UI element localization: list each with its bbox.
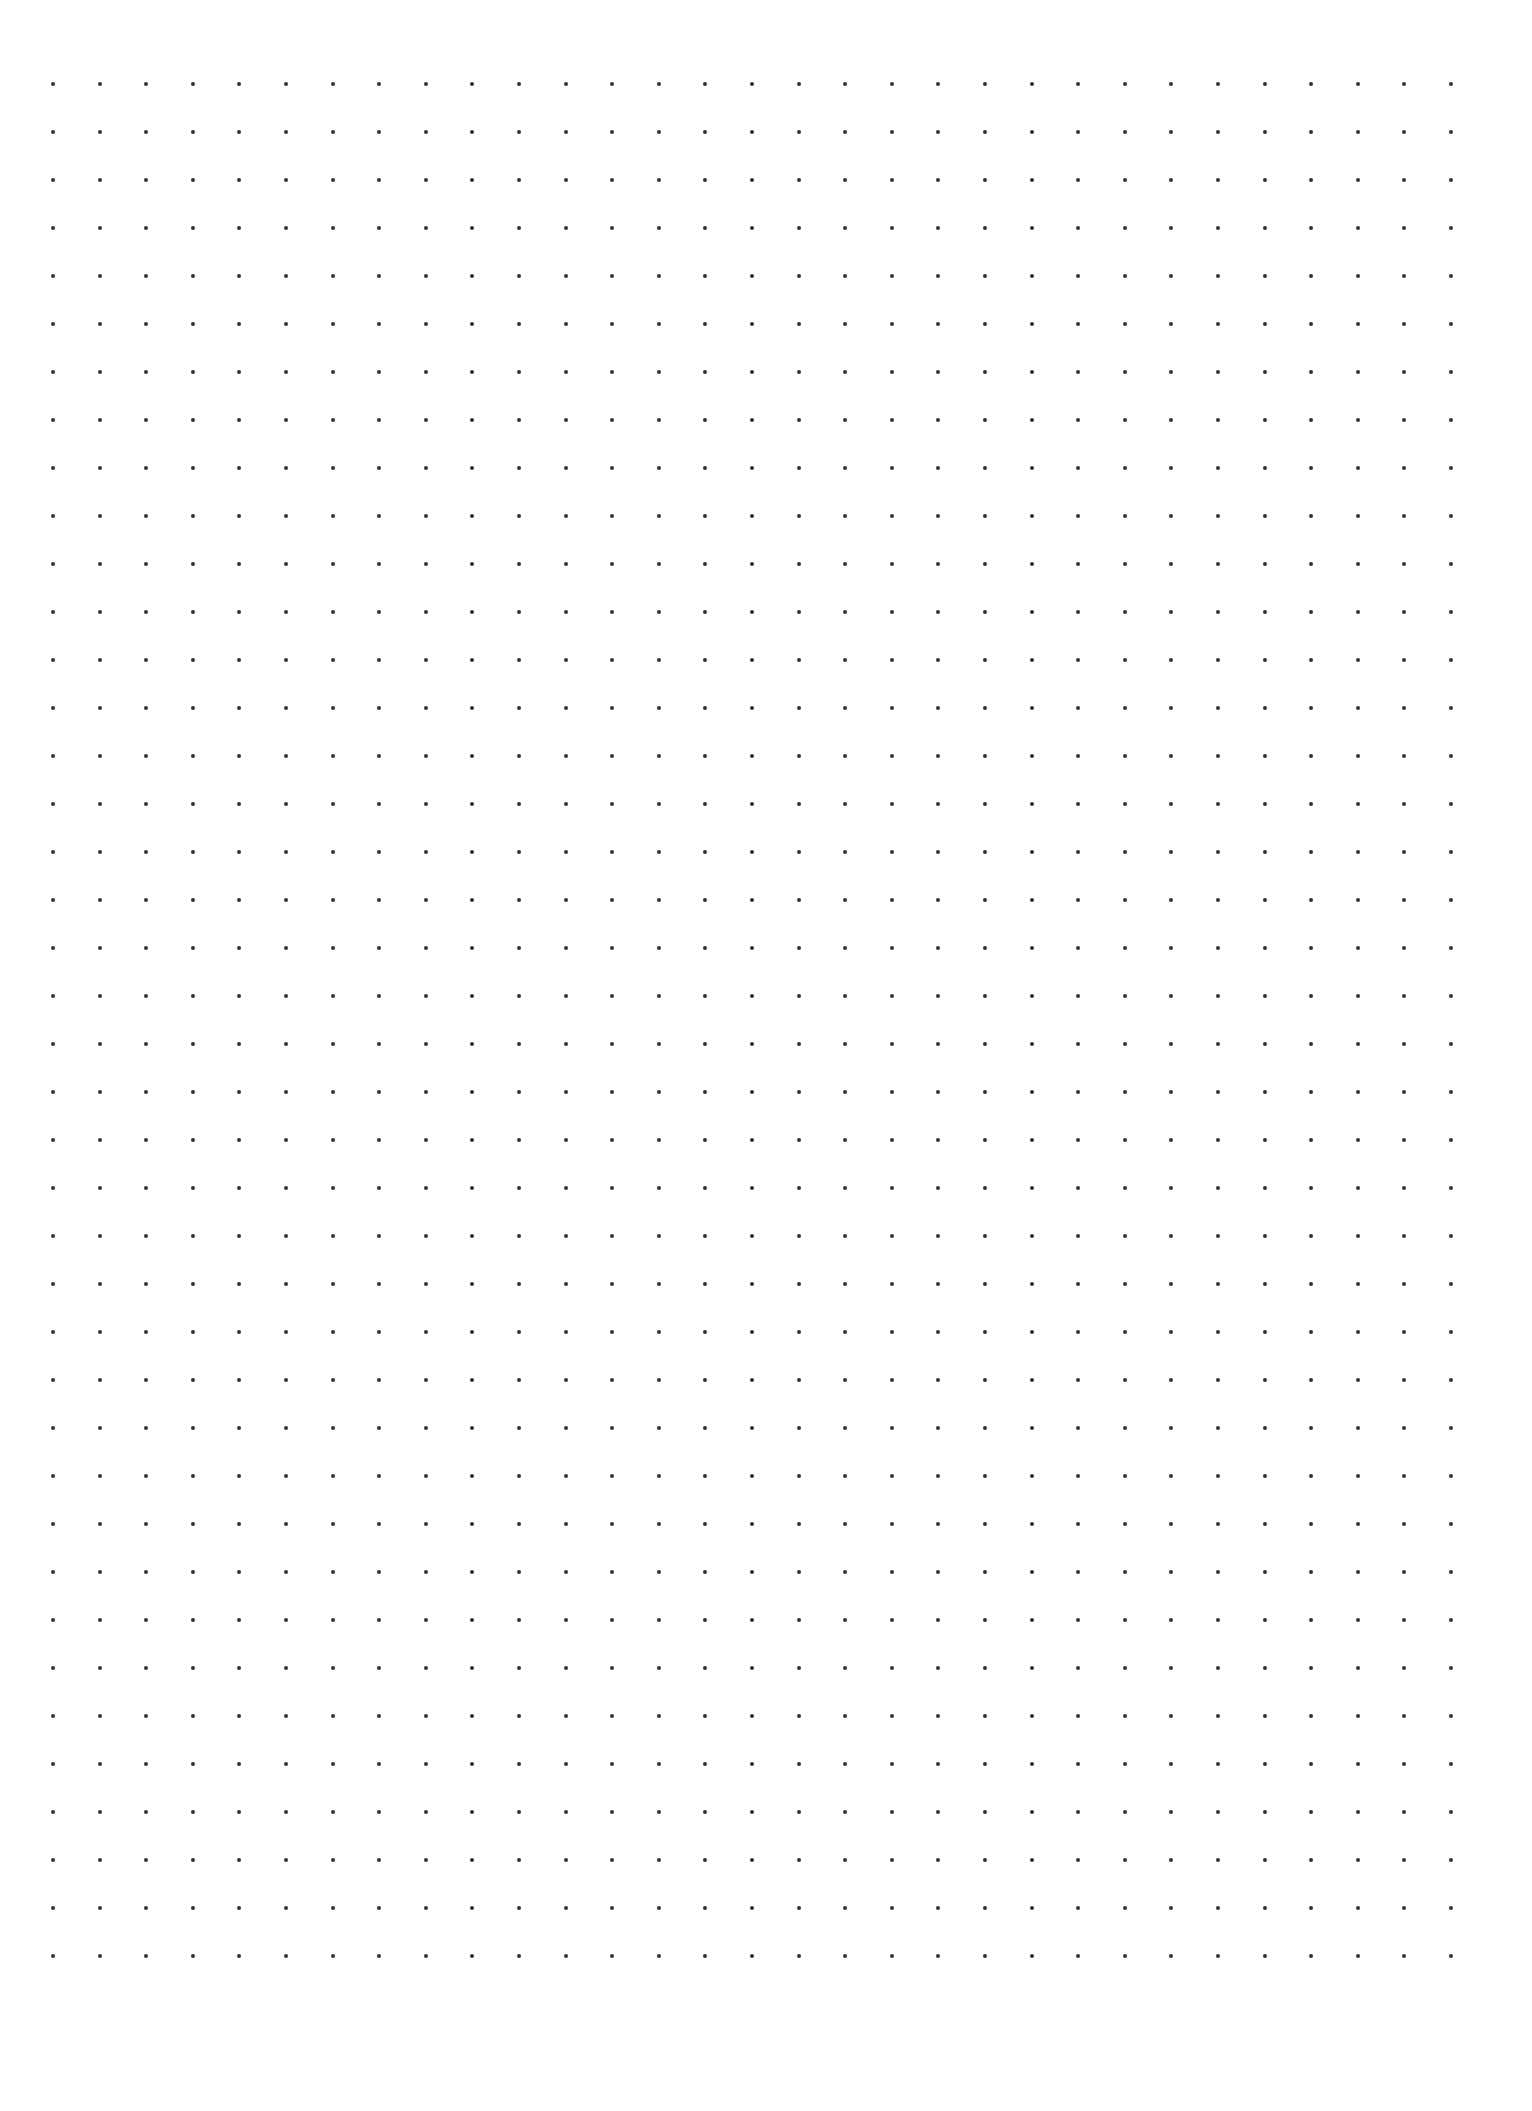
grid-dot (983, 1618, 987, 1622)
grid-dot (1449, 274, 1453, 278)
grid-dot (983, 1426, 987, 1430)
grid-dot (843, 1666, 847, 1670)
grid-dot (843, 1282, 847, 1286)
grid-dot (1123, 1282, 1127, 1286)
grid-dot (1076, 706, 1080, 710)
grid-dot (470, 754, 474, 758)
grid-dot (657, 1234, 661, 1238)
grid-dot (936, 610, 940, 614)
grid-dot (1263, 226, 1267, 230)
grid-dot (1123, 610, 1127, 614)
grid-dot (424, 946, 428, 950)
grid-dot (750, 754, 754, 758)
grid-dot (983, 1522, 987, 1526)
grid-dot (983, 898, 987, 902)
grid-dot (657, 1858, 661, 1862)
grid-dot (657, 514, 661, 518)
grid-dot (983, 322, 987, 326)
grid-dot (191, 1714, 195, 1718)
grid-dot (98, 322, 102, 326)
grid-dot (564, 946, 568, 950)
grid-dot (377, 994, 381, 998)
grid-dot (51, 1234, 55, 1238)
grid-dot (1030, 1906, 1034, 1910)
grid-dot (750, 1138, 754, 1142)
grid-dot (331, 1714, 335, 1718)
grid-dot (1402, 1762, 1406, 1766)
grid-dot (470, 1570, 474, 1574)
grid-dot (1076, 1570, 1080, 1574)
grid-dot (1356, 178, 1360, 182)
grid-dot (1169, 1138, 1173, 1142)
grid-dot (144, 946, 148, 950)
grid-dot (284, 418, 288, 422)
grid-dot (377, 130, 381, 134)
grid-dot (1169, 322, 1173, 326)
grid-dot (1169, 1954, 1173, 1958)
grid-dot (98, 1714, 102, 1718)
grid-dot (470, 658, 474, 662)
grid-dot (98, 1858, 102, 1862)
grid-dot (657, 82, 661, 86)
grid-dot (657, 898, 661, 902)
grid-dot (517, 610, 521, 614)
grid-dot (1263, 1234, 1267, 1238)
grid-dot (703, 994, 707, 998)
grid-dot (1309, 994, 1313, 998)
grid-dot (750, 658, 754, 662)
grid-dot (284, 1138, 288, 1142)
grid-dot (98, 1378, 102, 1382)
grid-dot (564, 514, 568, 518)
grid-dot (377, 850, 381, 854)
grid-dot (1263, 514, 1267, 518)
grid-dot (284, 802, 288, 806)
grid-dot (1263, 1618, 1267, 1622)
grid-dot (98, 178, 102, 182)
grid-dot (517, 1090, 521, 1094)
grid-dot (144, 1522, 148, 1526)
grid-dot (1356, 562, 1360, 566)
grid-dot (237, 274, 241, 278)
grid-dot (703, 754, 707, 758)
grid-dot (1216, 226, 1220, 230)
grid-dot (144, 802, 148, 806)
grid-dot (51, 946, 55, 950)
grid-dot (936, 178, 940, 182)
grid-dot (983, 1954, 987, 1958)
grid-dot (610, 1810, 614, 1814)
grid-dot (331, 226, 335, 230)
grid-dot (331, 1474, 335, 1478)
grid-dot (237, 1618, 241, 1622)
grid-dot (517, 1522, 521, 1526)
grid-dot (564, 130, 568, 134)
grid-dot (191, 1666, 195, 1670)
grid-dot (1356, 994, 1360, 998)
grid-dot (51, 82, 55, 86)
grid-dot (936, 1666, 940, 1670)
grid-dot (610, 1666, 614, 1670)
grid-dot (1356, 1570, 1360, 1574)
grid-dot (750, 322, 754, 326)
grid-dot (936, 706, 940, 710)
grid-dot (470, 226, 474, 230)
grid-dot (1030, 322, 1034, 326)
grid-dot (936, 274, 940, 278)
grid-dot (703, 1282, 707, 1286)
grid-dot (843, 1762, 847, 1766)
grid-dot (1263, 1762, 1267, 1766)
grid-dot (1402, 658, 1406, 662)
grid-dot (936, 1378, 940, 1382)
grid-dot (564, 1426, 568, 1430)
grid-dot (703, 1762, 707, 1766)
grid-dot (890, 1186, 894, 1190)
grid-dot (1216, 1138, 1220, 1142)
grid-dot (750, 1042, 754, 1046)
grid-dot (797, 706, 801, 710)
grid-dot (564, 1282, 568, 1286)
grid-dot (1356, 1762, 1360, 1766)
grid-dot (843, 1234, 847, 1238)
grid-dot (470, 1618, 474, 1622)
grid-dot (1263, 1906, 1267, 1910)
grid-dot (657, 1522, 661, 1526)
grid-dot (284, 1714, 288, 1718)
